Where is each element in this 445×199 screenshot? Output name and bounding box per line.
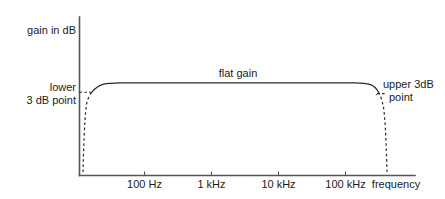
lower-3db-label-line2: 3 dB point	[26, 94, 76, 106]
upper-3db-label-line2: point	[389, 91, 413, 103]
x-tick-label-100hz: 100 Hz	[127, 178, 162, 190]
x-tick-label-1khz: 1 kHz	[197, 178, 225, 190]
curve-lower-skirt-dashed	[83, 92, 92, 172]
lower-3db-label-line1: lower	[50, 81, 77, 93]
x-axis-label: frequency	[372, 178, 421, 190]
curve-upper-skirt-dashed	[379, 92, 387, 172]
x-tick-label-100khz: 100 kHz	[325, 178, 365, 190]
x-tick-label-10khz: 10 kHz	[261, 178, 295, 190]
frequency-response-chart: gain in dB flat gain lower 3 dB point up…	[0, 0, 445, 199]
upper-3db-label-line1: upper 3dB	[383, 78, 434, 90]
chart-svg: gain in dB flat gain lower 3 dB point up…	[0, 0, 445, 199]
curve-passband-solid	[92, 83, 379, 93]
flat-gain-label: flat gain	[219, 67, 258, 79]
y-axis-label: gain in dB	[27, 24, 76, 36]
